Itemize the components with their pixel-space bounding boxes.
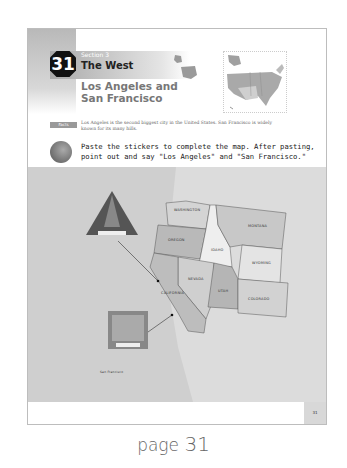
region-title: The West (81, 60, 133, 71)
state-label-utah: UTAH (218, 289, 228, 293)
state-label-montana: MONTANA (248, 224, 267, 228)
state-label-oregon: OREGON (168, 238, 185, 242)
page-caption: page 31 (0, 432, 347, 456)
state-label-washington: WASHINGTON (174, 208, 200, 212)
section-label: Section 3 (81, 51, 109, 58)
us-locator-map-icon (223, 51, 287, 113)
page-number: 31 (304, 402, 326, 424)
mini-alaska-hawaii-icon (171, 53, 199, 89)
state-label-idaho: IDAHO (211, 248, 223, 252)
facts-tag: Facts (50, 122, 77, 128)
workbook-page: 31 Section 3 The West Los Angeles and Sa… (27, 28, 327, 425)
sticker-icon (50, 141, 72, 163)
caption-prefix: page (137, 435, 179, 455)
instruction-text: Paste the stickers to complete the map. … (81, 142, 321, 162)
state-label-wyoming: WYOMING (252, 261, 271, 265)
state-label-colorado: COLORADO (248, 297, 270, 301)
caption-number: 31 (184, 432, 209, 456)
lesson-number-badge: 31 (50, 51, 76, 77)
state-label-california: CALIFORNIA (161, 291, 184, 295)
facts-text: Los Angeles is the second biggest city i… (81, 120, 281, 132)
sticker-label-san-francisco: San Francisco (100, 370, 123, 374)
map-drawing (28, 167, 327, 402)
state-label-nevada: NEVADA (188, 277, 204, 281)
west-region-map: WASHINGTON OREGON IDAHO MONTANA WYOMING … (28, 167, 327, 402)
page-footer (28, 402, 327, 424)
